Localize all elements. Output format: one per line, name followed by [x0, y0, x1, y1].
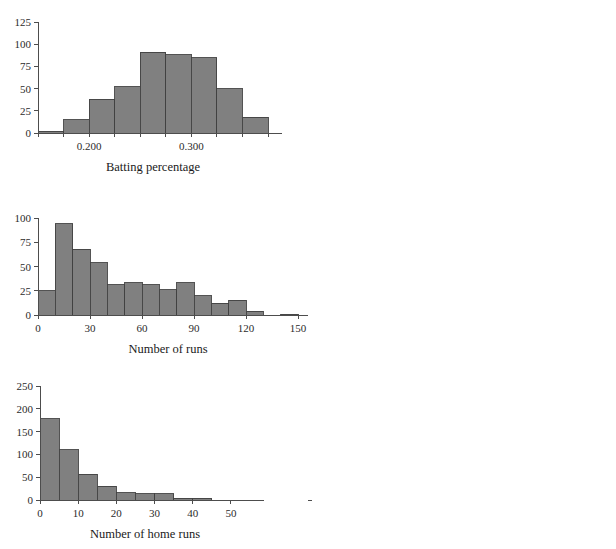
y-tick-label: 50: [20, 261, 32, 273]
y-tick-label: 0: [26, 127, 32, 139]
histogram-bar: [229, 300, 246, 315]
y-tick-label: 75: [20, 60, 32, 72]
histogram-bar: [38, 291, 55, 315]
y-tick-label: 100: [15, 38, 32, 50]
y-tick-label: 250: [17, 380, 34, 392]
histogram-figure: 02550751001250.2000.300Batting percentag…: [0, 0, 616, 549]
histogram-panel-number-of-runs: 02550751000306090120150Number of runs: [0, 183, 308, 366]
histogram-bar: [107, 285, 124, 315]
y-tick-label: 0: [28, 494, 34, 506]
x-tick-label: 50: [225, 507, 237, 519]
x-tick-label: 120: [238, 322, 255, 334]
histogram-bar: [90, 263, 107, 315]
histogram-bar: [246, 311, 263, 315]
x-tick-label: 0: [37, 507, 43, 519]
x-tick-label: 20: [111, 507, 123, 519]
histogram-bar: [155, 494, 174, 500]
histogram-bar: [159, 290, 176, 315]
x-tick-label: 150: [290, 322, 307, 334]
y-tick-label: 75: [20, 236, 32, 248]
histogram-bar: [78, 474, 97, 500]
x-tick-label: 0.300: [179, 140, 204, 152]
histogram-bar: [64, 120, 90, 133]
y-tick-label: 50: [22, 471, 34, 483]
bars-group: [38, 224, 298, 315]
y-tick-label: 150: [17, 426, 34, 438]
y-tick-label: 25: [20, 105, 32, 117]
x-axis-title: Number of runs: [128, 342, 207, 356]
x-tick-label: 0.200: [77, 140, 102, 152]
histogram-bar: [40, 419, 59, 500]
histogram-panel-number-of-home-runs: 05010015020025001020304050Number of home…: [0, 366, 308, 549]
x-tick-label: 10: [73, 507, 85, 519]
histogram-bar: [211, 303, 228, 315]
histogram-bar: [115, 87, 141, 133]
histogram-bar: [177, 283, 194, 315]
y-tick-label: 0: [26, 309, 32, 321]
x-tick-label: 40: [187, 507, 199, 519]
x-tick-label: 60: [137, 322, 149, 334]
x-tick-label: 0: [35, 322, 41, 334]
histogram-bar: [73, 249, 90, 315]
y-tick-label: 50: [20, 83, 32, 95]
histogram-bar: [125, 283, 142, 315]
histogram-bar: [166, 55, 192, 133]
x-axis-title: Number of home runs: [90, 527, 200, 541]
y-tick-label: 125: [15, 16, 32, 28]
histogram-bar: [140, 52, 166, 133]
y-tick-label: 200: [17, 403, 34, 415]
histogram-panel-times-at-bat: 02550751000100200300400500600700Times at…: [308, 0, 616, 183]
histogram-bar: [217, 89, 243, 133]
bars-group: [40, 419, 212, 500]
histogram-bar: [97, 486, 116, 500]
histogram-panel-batting-percentage: 02550751001250.2000.300Batting percentag…: [0, 0, 308, 183]
histogram-bar: [194, 296, 211, 315]
histogram-bar: [142, 285, 159, 315]
y-tick-label: 100: [15, 212, 32, 224]
histogram-bar: [242, 117, 268, 133]
x-tick-label: 30: [85, 322, 97, 334]
histogram-bar: [135, 494, 154, 500]
histogram-bar: [89, 99, 115, 133]
x-axis-title: Batting percentage: [106, 160, 201, 174]
histogram-bar: [55, 224, 72, 315]
y-tick-label: 25: [20, 285, 32, 297]
histogram-bar: [59, 450, 78, 500]
y-tick-label: 100: [17, 448, 34, 460]
histogram-bar: [116, 493, 135, 500]
x-tick-label: 90: [189, 322, 201, 334]
bars-group: [38, 52, 268, 133]
histogram-panel-runs-batted-in: 025507510012501030507090110130150Runs ba…: [308, 366, 616, 549]
histogram-panel-number-of-hits: 02550751001250100200Number of hits: [308, 183, 616, 366]
x-tick-label: 30: [149, 507, 161, 519]
histogram-bar: [191, 58, 217, 133]
